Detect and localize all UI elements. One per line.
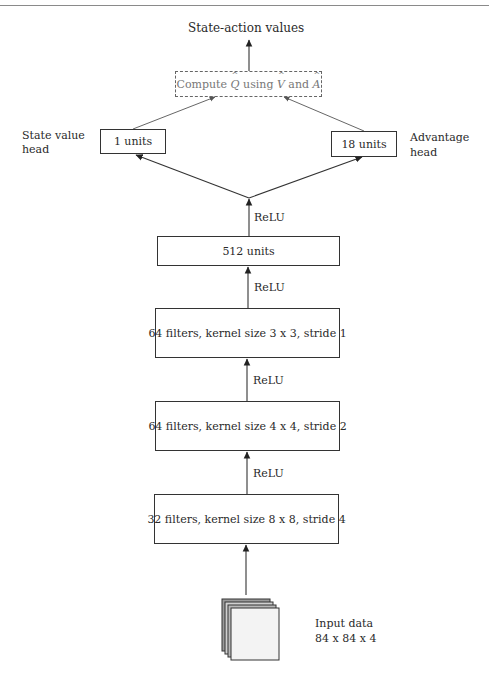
relu-label-conv1: ReLU bbox=[253, 467, 284, 481]
conv2-label: 64 filters, kernel size 4 x 4, stride 2 bbox=[148, 420, 346, 433]
fc-512-label: 512 units bbox=[222, 245, 274, 258]
conv2-box: 64 filters, kernel size 4 x 4, stride 2 bbox=[155, 401, 340, 451]
a-hat-symbol: A bbox=[313, 78, 321, 91]
fc-512-box: 512 units bbox=[157, 236, 340, 266]
q-hat-symbol: Q bbox=[231, 78, 240, 91]
state-value-head-label-2: head bbox=[22, 143, 49, 157]
conv1-box: 32 filters, kernel size 8 x 8, stride 4 bbox=[154, 494, 339, 544]
input-label-2: 84 x 84 x 4 bbox=[315, 632, 376, 646]
advantage-head-box: 18 units bbox=[331, 131, 397, 157]
relu-label-fc: ReLU bbox=[254, 211, 285, 225]
aggregation-middle: using bbox=[240, 78, 277, 91]
state-value-head-label-1: State value bbox=[22, 129, 85, 143]
conv1-label: 32 filters, kernel size 8 x 8, stride 4 bbox=[147, 513, 345, 526]
input-label-1: Input data bbox=[315, 617, 373, 631]
conv3-label: 64 filters, kernel size 3 x 3, stride 1 bbox=[148, 327, 346, 340]
relu-label-conv3: ReLU bbox=[254, 281, 285, 295]
conv3-box: 64 filters, kernel size 3 x 3, stride 1 bbox=[155, 308, 340, 358]
relu-label-conv2: ReLU bbox=[253, 374, 284, 388]
advantage-head-label-1: Advantage bbox=[410, 131, 469, 145]
aggregation-box: Compute Q using V and A bbox=[175, 71, 322, 97]
input-stack-icon bbox=[222, 599, 279, 660]
advantage-head-units: 18 units bbox=[341, 138, 386, 151]
state-value-head-units: 1 units bbox=[114, 135, 152, 148]
aggregation-prefix: Compute bbox=[176, 78, 230, 91]
output-label: State-action values bbox=[188, 21, 304, 35]
advantage-head-label-2: head bbox=[410, 146, 437, 160]
aggregation-and: and bbox=[285, 78, 313, 91]
v-hat-symbol: V bbox=[277, 78, 285, 91]
state-value-head-box: 1 units bbox=[100, 129, 166, 154]
